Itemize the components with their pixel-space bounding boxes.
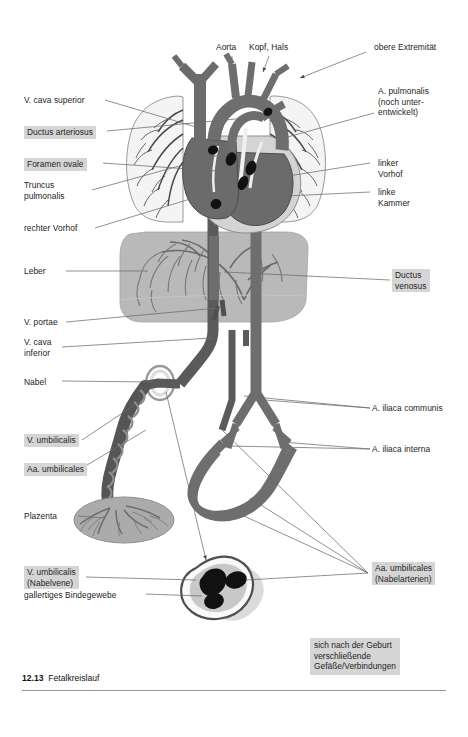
label-v-portae: V. portae [24, 317, 58, 328]
label-ductus-arteriosus: Ductus arteriosus [24, 126, 96, 139]
figure-caption: 12.13 Fetalkreislauf [22, 673, 99, 683]
placenta [74, 497, 174, 543]
label-a-pulmonalis: A. pulmonalis (noch unter- entwickelt) [378, 86, 429, 118]
caption-rule [22, 690, 446, 691]
label-a-iliaca-interna: A. iliaca interna [372, 444, 430, 455]
figure-page: Aorta Kopf, Hals obere Extremität V. cav… [0, 0, 468, 737]
label-aa-umbilicales-nabelarterien: Aa. umbilicales (Nabelarterien) [372, 562, 435, 585]
umbilical-arteries [191, 442, 294, 518]
figure-caption-number: 12.13 [22, 673, 44, 683]
label-ductus-venosus: Ductus venosus [392, 269, 430, 292]
label-aa-umbilicales: Aa. umbilicales [24, 463, 87, 476]
label-v-umbilicalis: V. umbilicalis [24, 434, 79, 447]
label-truncus-pulmonalis: Truncus pulmonalis [24, 180, 65, 201]
label-rechter-vorhof: rechter Vorhof [24, 223, 77, 234]
label-linke-kammer: linke Kammer [378, 187, 410, 208]
label-gallertiges-bindegewebe: gallertiges Bindegewebe [24, 590, 116, 601]
umbilical-cord-cross-section [181, 557, 264, 621]
label-obere-extremitaet: obere Extremität [374, 42, 436, 53]
label-v-cava-superior: V. cava superior [24, 95, 85, 106]
label-plazenta: Plazenta [24, 511, 57, 522]
label-v-cava-inferior: V. cava inferior [24, 337, 52, 358]
figure-caption-title: Fetalkreislauf [48, 673, 99, 683]
label-v-umbilicalis-nabelvene: V. umbilicalis (Nabelvene) [24, 566, 79, 589]
label-a-iliaca-communis: A. iliaca communis [372, 403, 443, 414]
label-linker-vorhof: linker Vorhof [378, 158, 403, 179]
label-kopf-hals: Kopf, Hals [249, 42, 288, 53]
postnatal-closure-note: sich nach der Geburt verschließende Gefä… [310, 638, 400, 675]
label-nabel: Nabel [24, 377, 46, 388]
heart [174, 54, 301, 233]
label-foramen-ovale: Foramen ovale [24, 158, 87, 171]
label-aorta: Aorta [216, 42, 236, 53]
label-leber: Leber [24, 266, 46, 277]
